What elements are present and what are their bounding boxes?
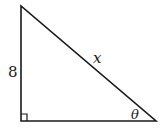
triangle-diagram: 8 x θ: [0, 0, 164, 131]
angle-label: θ: [131, 107, 139, 122]
right-triangle: [21, 6, 156, 121]
hypotenuse-label: x: [93, 49, 102, 67]
right-angle-marker: [21, 114, 27, 121]
vertical-leg-label: 8: [8, 63, 18, 81]
